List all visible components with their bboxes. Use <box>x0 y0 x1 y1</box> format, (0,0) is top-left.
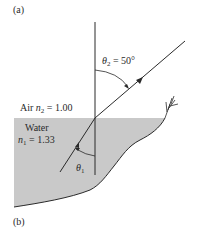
panel-label-a: (a) <box>13 4 24 15</box>
theta2-label: θ2 = 50° <box>102 55 135 68</box>
grass-tuft-icon <box>165 96 178 118</box>
panel-label-b: (b) <box>13 216 25 227</box>
water-label: Water <box>25 122 49 133</box>
theta2-arc-arrowhead <box>124 84 129 89</box>
air-label: Air n2 = 1.00 <box>20 102 72 115</box>
ray-arrowhead-air <box>136 77 143 84</box>
theta1-label: θ1 <box>76 162 84 175</box>
theta2-arc <box>95 70 128 87</box>
water-index-label: n1 = 1.33 <box>18 134 55 147</box>
refraction-diagram <box>0 0 201 232</box>
